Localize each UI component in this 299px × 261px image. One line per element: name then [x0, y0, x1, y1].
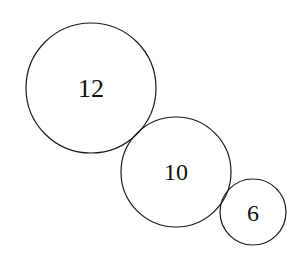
diagram-canvas: 12 10 6 [0, 0, 299, 261]
circle-label: 6 [247, 200, 259, 226]
circle-6: 6 [220, 179, 286, 245]
circle-10: 10 [121, 117, 231, 227]
circle-label: 10 [164, 159, 188, 185]
circle-label: 12 [78, 74, 104, 103]
